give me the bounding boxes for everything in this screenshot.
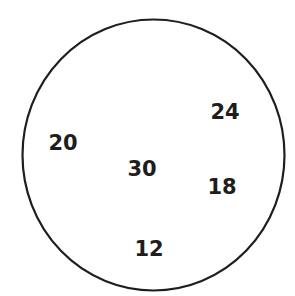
number-label-30: 30 — [127, 159, 156, 180]
number-label-20: 20 — [48, 133, 77, 154]
number-label-12: 12 — [134, 239, 163, 260]
number-label-24: 24 — [210, 102, 239, 123]
diagram-canvas: 20 24 30 18 12 — [0, 0, 295, 296]
number-label-18: 18 — [207, 177, 236, 198]
